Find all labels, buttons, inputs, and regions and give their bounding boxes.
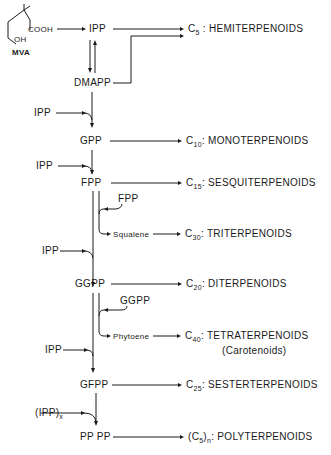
node-ipp: IPP (89, 24, 106, 34)
input-ipp-4: IPP (45, 345, 62, 355)
mva-label: MVA (12, 49, 30, 57)
node-pppp: PP PP (80, 432, 111, 442)
intermediate-squalene: Squalene (113, 231, 149, 239)
input-ipp-3: IPP (42, 246, 59, 256)
product-triterpenoids: C30: TRITERPENOIDS (185, 229, 292, 240)
oh-label: OH (14, 36, 27, 44)
node-gfpp: GFPP (80, 380, 108, 390)
cooh-label: COOH (28, 26, 53, 34)
product-sesterterpenoids: C25: SESTERTERPENOIDS (186, 380, 318, 391)
product-diterpenoids: C20: DITERPENOIDS (186, 279, 287, 290)
product-sesquiterpenoids: C15: SESQUITERPENOIDS (186, 178, 316, 189)
intermediate-phytoene: Phytoene (113, 333, 149, 341)
product-monoterpenoids: C10: MONOTERPENOIDS (186, 136, 308, 147)
input-ipp-2: IPP (36, 161, 53, 171)
node-ggpp: GGPP (75, 279, 105, 289)
product-tetraterpenoids: C40: TETRATERPENOIDS (185, 331, 308, 342)
node-dmapp: DMAPP (74, 78, 111, 88)
product-polyterpenoids: (C5)n: POLYTERPENOIDS (188, 432, 313, 443)
product-hemiterpenoids: C5 : HEMITERPENOIDS (188, 24, 303, 35)
input-fpp-side: FPP (118, 194, 138, 204)
input-ipp-x: (IPP)x (35, 408, 63, 419)
node-fpp: FPP (81, 178, 101, 188)
node-gpp: GPP (80, 136, 102, 146)
product-carotenoids-note: (Carotenoids) (222, 346, 286, 356)
input-ipp-1: IPP (34, 108, 51, 118)
input-ggpp-side: GGPP (120, 296, 150, 306)
